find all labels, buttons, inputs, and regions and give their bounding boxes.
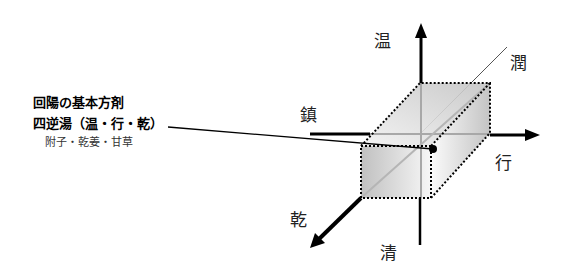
axis-label-diagonal-back: 潤 [510,55,527,72]
formula-box [361,83,490,198]
annotation-ingredients: 附子・乾姜・甘草 [45,137,133,148]
axis-label-left: 鎮 [300,107,317,124]
annotation-formula: 四逆湯（温・行・乾） [33,117,163,130]
axis-label-up: 温 [374,33,391,50]
axis-label-down: 清 [380,245,397,262]
arrow-up-icon [415,23,427,38]
axis-label-diagonal-front: 乾 [290,212,307,229]
axis-label-right: 行 [495,155,512,172]
arrow-right-icon [525,129,540,141]
formula-point [429,145,437,153]
annotation-heading: 回陽の基本方剤 [33,96,124,109]
axis-lines-front [318,198,420,245]
